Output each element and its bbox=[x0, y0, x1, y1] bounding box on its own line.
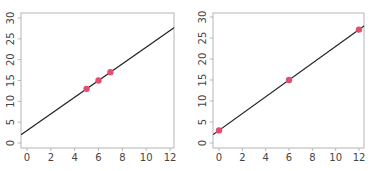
x-tick-label: 8 bbox=[119, 152, 125, 163]
y-tick-label: 10 bbox=[5, 95, 16, 108]
x-tick-label: 12 bbox=[164, 152, 177, 163]
data-point bbox=[356, 26, 362, 32]
x-tick-label: 4 bbox=[71, 152, 77, 163]
y-tick-label: 0 bbox=[5, 140, 16, 146]
data-point bbox=[107, 69, 113, 75]
data-point bbox=[83, 86, 89, 92]
x-tick-label: 12 bbox=[353, 152, 366, 163]
data-point bbox=[95, 77, 101, 83]
y-tick-label: 25 bbox=[5, 32, 16, 45]
x-tick-label: 4 bbox=[262, 152, 268, 163]
y-tick-label: 10 bbox=[197, 95, 208, 108]
y-tick-label: 0 bbox=[197, 140, 208, 146]
y-tick-label: 20 bbox=[5, 53, 16, 66]
data-point bbox=[216, 127, 222, 133]
y-tick-label: 5 bbox=[197, 119, 208, 125]
x-tick-label: 8 bbox=[309, 152, 315, 163]
x-tick-label: 2 bbox=[239, 152, 245, 163]
y-tick-label: 25 bbox=[197, 32, 208, 45]
data-point bbox=[286, 77, 292, 83]
x-tick-label: 10 bbox=[140, 152, 153, 163]
x-tick-label: 0 bbox=[216, 152, 222, 163]
chart-canvas: 0246810120510152025300246810120510152025… bbox=[0, 0, 374, 171]
chart-panel-2: 024681012051015202530 bbox=[197, 11, 368, 163]
y-tick-label: 15 bbox=[5, 74, 16, 87]
y-tick-label: 30 bbox=[197, 11, 208, 24]
chart-panel-1: 024681012051015202530 bbox=[5, 12, 180, 163]
y-tick-label: 5 bbox=[5, 119, 16, 125]
y-tick-label: 30 bbox=[5, 12, 16, 25]
x-tick-label: 10 bbox=[329, 152, 342, 163]
x-tick-label: 2 bbox=[48, 152, 54, 163]
y-tick-label: 20 bbox=[197, 53, 208, 66]
y-tick-label: 15 bbox=[197, 74, 208, 87]
x-tick-label: 6 bbox=[95, 152, 101, 163]
x-tick-label: 0 bbox=[24, 152, 30, 163]
x-tick-label: 6 bbox=[286, 152, 292, 163]
